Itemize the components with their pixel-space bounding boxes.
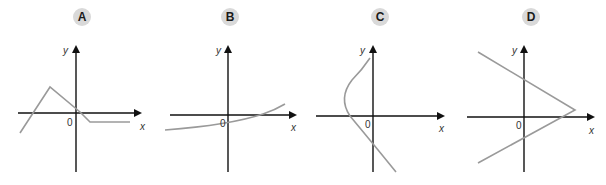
- y-axis-label: y: [62, 45, 69, 56]
- graph-a-curve: [20, 87, 130, 133]
- y-axis-label: y: [215, 45, 222, 56]
- x-axis-label: x: [588, 125, 595, 136]
- graph-a-svg: y x 0: [0, 0, 150, 185]
- graph-b-svg: y x 0: [150, 0, 300, 185]
- graph-d-curve: [478, 52, 575, 163]
- y-axis-label: y: [511, 45, 518, 56]
- origin-label: 0: [67, 117, 73, 128]
- graph-panel-b: B y x 0: [150, 0, 300, 185]
- graph-c-curve: [344, 58, 396, 172]
- graph-c-svg: y x 0: [300, 0, 450, 185]
- x-axis-label: x: [438, 123, 445, 134]
- graph-panel-d: D y x 0: [450, 0, 606, 185]
- x-axis-label: x: [290, 122, 297, 133]
- origin-label: 0: [516, 120, 522, 131]
- graph-panel-c: C y x 0: [300, 0, 450, 185]
- y-axis-label: y: [359, 45, 366, 56]
- x-axis-label: x: [139, 121, 146, 132]
- graph-panel-a: A y x 0: [0, 0, 150, 185]
- origin-label: 0: [365, 119, 371, 130]
- graph-d-svg: y x 0: [450, 0, 606, 185]
- origin-label: 0: [220, 118, 226, 129]
